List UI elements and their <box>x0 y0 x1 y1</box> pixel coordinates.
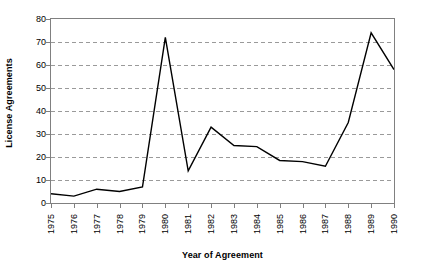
x-tick-label-text: 1979 <box>137 214 147 234</box>
x-tick-label-text: 1988 <box>343 214 353 234</box>
y-axis-tick-labels: 01020304050607080 <box>14 18 46 204</box>
y-tick-label: 20 <box>18 153 46 162</box>
plot-area <box>50 18 395 204</box>
x-tick-label-text: 1977 <box>92 214 102 234</box>
x-tick-label-text: 1989 <box>366 214 376 234</box>
x-tick-label-text: 1990 <box>389 214 399 234</box>
x-axis-title: Year of Agreement <box>50 250 395 260</box>
x-tick-label-text: 1980 <box>160 214 170 234</box>
x-tick-label-text: 1982 <box>206 214 216 234</box>
y-tick-label: 60 <box>18 61 46 70</box>
y-axis-title-text: License Agreements <box>4 58 14 148</box>
x-tick-label-text: 1975 <box>46 214 56 234</box>
y-tick-label: 30 <box>18 130 46 139</box>
x-tick-label-text: 1981 <box>183 214 193 234</box>
plot-svg <box>51 19 394 203</box>
y-tick-label: 80 <box>18 15 46 24</box>
y-tick-label: 70 <box>18 38 46 47</box>
x-tick-label-text: 1976 <box>69 214 79 234</box>
y-tick-label: 0 <box>18 199 46 208</box>
y-tick-label: 50 <box>18 84 46 93</box>
x-tick-label-text: 1984 <box>252 214 262 234</box>
x-tick-label: 1990 <box>377 208 411 242</box>
x-tick-label-text: 1978 <box>115 214 125 234</box>
y-tick-label: 40 <box>18 107 46 116</box>
gridlines <box>51 43 394 181</box>
x-tick-label-text: 1985 <box>275 214 285 234</box>
chart-container: License Agreements 01020304050607080 197… <box>0 0 421 271</box>
data-series-line <box>51 33 394 196</box>
x-tick-label-text: 1986 <box>298 214 308 234</box>
x-tick-label-text: 1987 <box>320 214 330 234</box>
x-axis-tick-labels: 1975197619771978197919801981198219831984… <box>50 208 395 248</box>
y-tick-label: 10 <box>18 176 46 185</box>
x-tick-label-text: 1983 <box>229 214 239 234</box>
